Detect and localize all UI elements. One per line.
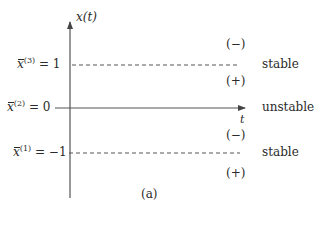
equilibrium-symbol: x xyxy=(13,146,20,158)
stability-label-zero: unstable xyxy=(262,101,314,113)
equilibrium-label-2: x(2) = 0 xyxy=(7,100,50,113)
equilibrium-symbol: x xyxy=(17,58,24,70)
sign-below-plus-one: (+) xyxy=(226,75,245,87)
stability-label-minus-one: stable xyxy=(262,146,299,158)
equilibrium-symbol: x xyxy=(7,101,14,113)
diagram-canvas xyxy=(0,0,320,229)
equilibrium-label-1: x(1) = −1 xyxy=(13,145,67,158)
y-axis-label: x(t) xyxy=(76,11,97,23)
sign-above-plus-one: (−) xyxy=(226,38,245,50)
equilibrium-label-3: x(3) = 1 xyxy=(17,57,60,70)
sign-below-minus-one: (+) xyxy=(226,167,245,179)
equilibrium-value: = 1 xyxy=(39,57,61,71)
stability-label-plus-one: stable xyxy=(262,58,299,70)
equilibrium-index: (1) xyxy=(20,144,31,153)
figure-caption: (a) xyxy=(141,188,158,200)
equilibrium-index: (2) xyxy=(14,99,25,108)
phase-diagram: x(t) t x(3) = 1 x(2) = 0 x(1) = −1 (−) (… xyxy=(0,0,320,229)
equilibrium-value: = 0 xyxy=(29,100,51,114)
equilibrium-value: = −1 xyxy=(35,145,67,159)
equilibrium-index: (3) xyxy=(24,56,35,65)
x-axis-label: t xyxy=(240,114,244,125)
sign-above-minus-one: (−) xyxy=(226,129,245,141)
